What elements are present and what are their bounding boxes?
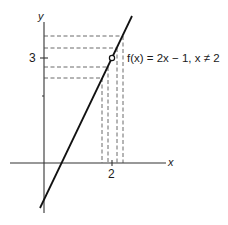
open-circle-hole [109, 55, 114, 60]
y-tick-label: 3 [29, 51, 36, 65]
y-axis-label: y [37, 10, 45, 22]
x-axis-label: x [167, 156, 174, 168]
function-graph: y x 3 2 f(x) = 2x − 1, x ≠ 2 [0, 0, 228, 225]
function-label: f(x) = 2x − 1, x ≠ 2 [127, 52, 220, 64]
x-tick-label: 2 [108, 167, 115, 181]
function-line [40, 16, 132, 208]
